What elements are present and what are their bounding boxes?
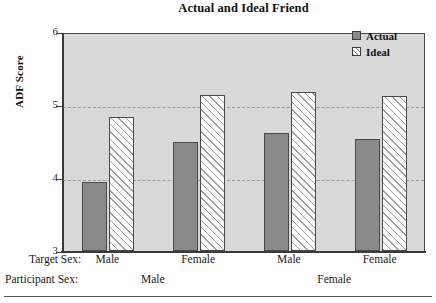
y-tick-label-4: 4 [34, 171, 58, 183]
participant-sex-label-2: Female [289, 273, 379, 285]
legend-item-actual: Actual [352, 28, 397, 43]
bottom-rule [4, 296, 432, 297]
gridline-5 [63, 107, 424, 108]
chart-legend: ActualIdeal [352, 28, 397, 60]
target-sex-label-3: Male [249, 253, 329, 265]
legend-swatch-actual-icon [352, 31, 361, 40]
bar-ideal-group-3 [291, 92, 316, 251]
y-tick-label-5: 5 [34, 98, 58, 110]
bar-actual-group-3 [264, 133, 289, 251]
legend-item-ideal: Ideal [352, 44, 397, 59]
bar-actual-group-2 [173, 142, 198, 252]
legend-label-ideal: Ideal [366, 46, 390, 58]
y-tick-mark-6 [56, 33, 62, 34]
chart-figure: Actual and Ideal Friend ADF Score 6543 A… [0, 0, 436, 303]
target-sex-label-1: Male [67, 253, 147, 265]
bar-ideal-group-4 [382, 96, 407, 251]
bar-actual-group-4 [355, 139, 380, 251]
target-sex-axis-row: Target Sex: MaleFemaleMaleFemale [0, 253, 436, 271]
participant-sex-row-title: Participant Sex: [5, 273, 78, 285]
y-axis-line [62, 33, 64, 253]
legend-swatch-ideal-icon [352, 47, 361, 56]
y-tick-mark-5 [56, 106, 62, 107]
target-sex-label-2: Female [158, 253, 238, 265]
bar-actual-group-1 [82, 182, 107, 251]
target-sex-label-4: Female [340, 253, 420, 265]
legend-label-actual: Actual [366, 30, 397, 42]
y-tick-label-6: 6 [34, 25, 58, 37]
chart-title: Actual and Ideal Friend [62, 1, 425, 16]
participant-sex-label-1: Male [108, 273, 198, 285]
participant-sex-axis-row: Participant Sex: MaleFemale [0, 273, 436, 291]
y-axis-title: ADF Score [13, 55, 25, 108]
bar-ideal-group-2 [200, 95, 225, 251]
plot-area [62, 33, 425, 252]
y-tick-mark-4 [56, 179, 62, 180]
bar-ideal-group-1 [109, 117, 134, 251]
